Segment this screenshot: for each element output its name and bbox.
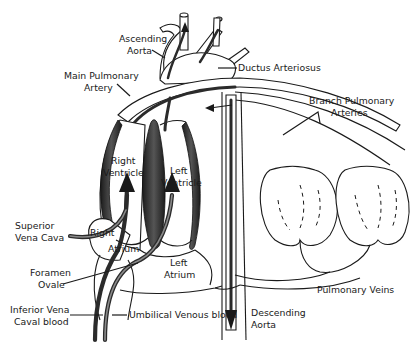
label-right-ventricle-2: Ventricle [103, 167, 144, 178]
label-main-pulmonary-artery-1: Main Pulmonary [64, 70, 139, 81]
label-ascending-aorta-1: Ascending [119, 33, 167, 44]
label-main-pulmonary-artery-2: Artery [84, 82, 113, 93]
label-branch-pulmonary-arteries-2: Arteries [331, 107, 368, 118]
aortic-arch [160, 13, 249, 84]
label-descending-aorta-1: Descending [251, 307, 306, 318]
label-ductus-arteriosus: Ductus Arteriosus [238, 62, 321, 73]
label-descending-aorta-2: Aorta [251, 319, 276, 330]
fetal-circulation-diagram: Ascending Aorta Ductus Arteriosus Main P… [0, 0, 419, 343]
label-inferior-vena-cava-2: Caval blood [14, 316, 69, 327]
label-ascending-aorta-2: Aorta [127, 45, 152, 56]
label-right-atrium-1: Right [90, 227, 115, 238]
label-left-atrium-2: Atrium [164, 269, 195, 280]
ductus-arteriosus [205, 92, 246, 340]
label-right-atrium-2: Atrium [108, 243, 139, 254]
label-left-atrium-1: Left [170, 257, 188, 268]
label-pulmonary-veins: Pulmonary Veins [317, 284, 394, 295]
label-branch-pulmonary-arteries-1: Branch Pulmonary [309, 95, 395, 106]
label-superior-vena-cava-2: Vena Cava [15, 232, 64, 243]
label-foramen-ovale-1: Foramen [30, 267, 71, 278]
label-inferior-vena-cava-1: Inferior Vena [10, 304, 69, 315]
label-right-ventricle-1: Right [111, 155, 136, 166]
label-foramen-ovale-2: Ovale [38, 279, 65, 290]
label-superior-vena-cava-1: Superior [15, 220, 55, 231]
label-left-ventricle-1: Left [170, 165, 188, 176]
label-umbilical-venous-blood: Umbilical Venous blood [129, 309, 237, 320]
label-left-ventricle-2: Ventricle [161, 177, 202, 188]
